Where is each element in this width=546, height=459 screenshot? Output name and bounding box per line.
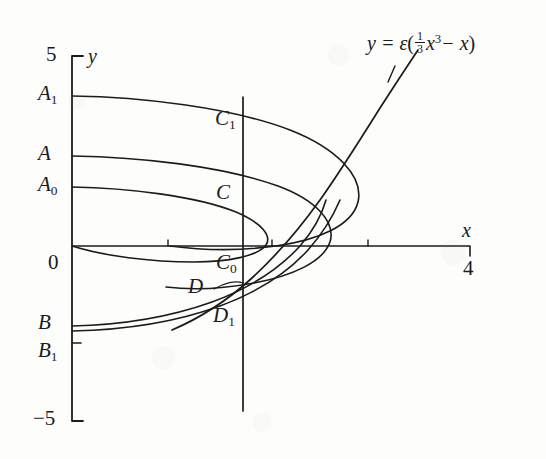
curve-a0-c0: [72, 187, 268, 262]
fraction-numerator: 1: [415, 30, 425, 42]
point-label-d: D: [188, 276, 203, 300]
y-mark-a1-base: A: [38, 81, 51, 105]
curve-a-c: [72, 156, 331, 289]
y-mark-a: A: [38, 143, 51, 167]
point-label-d1-subscript: 1: [228, 314, 235, 329]
fraction-denominator: 3: [415, 42, 425, 55]
point-label-c0: C0: [216, 252, 237, 276]
equation-leader: [388, 66, 395, 82]
point-label-c0-subscript: 0: [230, 261, 237, 276]
equation-close-paren: ): [469, 32, 476, 54]
x-axis-name: x: [462, 220, 471, 240]
y-mark-b1-base: B: [38, 338, 51, 362]
one-third-fraction: 13: [415, 30, 425, 55]
point-label-c1-base: C: [215, 106, 229, 130]
y-axis: [72, 56, 83, 421]
y-mark-b: B: [38, 312, 51, 336]
curve-b1-d1: [72, 200, 340, 331]
y-mark-a0-base: A: [38, 172, 51, 196]
point-label-c1-subscript: 1: [229, 117, 236, 132]
y-tick-label-5: 5: [46, 44, 57, 65]
equation-minus-x: − x: [441, 32, 468, 54]
y-mark-a0-subscript: 0: [51, 183, 58, 198]
point-label-c0-base: C: [216, 250, 230, 274]
y-mark-a0: A0: [38, 174, 58, 198]
y-mark-a-base: A: [38, 141, 51, 165]
y-mark-b1: B1: [38, 340, 58, 364]
y-tick-label-minus5: −5: [33, 408, 55, 429]
x-tick-label-4: 4: [463, 258, 474, 279]
y-axis-name: y: [88, 46, 97, 66]
equation-x-base: x: [426, 32, 435, 54]
equation-y: y =: [367, 32, 399, 54]
y-mark-b1-subscript: 1: [51, 349, 58, 364]
point-label-c-base: C: [216, 180, 230, 204]
equation-label: y = ε(13x3− x): [367, 30, 475, 55]
y-tick-label-0: 0: [48, 252, 59, 273]
y-mark-b-base: B: [38, 310, 51, 334]
point-label-d1-base: D: [213, 303, 228, 327]
figure-root: y = ε(13x3− x) y x 5 −5 0 4 A1 A A0 B B1…: [0, 0, 546, 459]
x-axis: [72, 246, 470, 256]
point-label-c1: C1: [215, 108, 236, 132]
point-label-d-base: D: [188, 274, 203, 298]
y-mark-a1-subscript: 1: [51, 92, 58, 107]
point-label-c: C: [216, 182, 230, 206]
y-mark-a1: A1: [38, 83, 58, 107]
curve-b-d: [72, 200, 326, 326]
point-label-d1: D1: [213, 305, 235, 329]
equation-open-paren: (: [407, 32, 414, 54]
